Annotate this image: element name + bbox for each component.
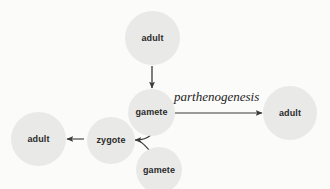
node-adult-top[interactable]: adult xyxy=(125,11,180,65)
edge-label-parthenogenesis: parthenogenesis xyxy=(174,90,259,103)
node-label-gamete-upper: gamete xyxy=(135,108,167,117)
node-label-adult-left: adult xyxy=(28,135,50,144)
node-label-zygote: zygote xyxy=(96,136,125,145)
diagram-canvas: adult gamete adult adult zygote gamete p… xyxy=(0,0,330,189)
node-gamete-upper[interactable]: gamete xyxy=(128,89,175,136)
node-label-gamete-lower: gamete xyxy=(143,166,175,175)
node-zygote[interactable]: zygote xyxy=(87,117,135,164)
node-label-adult-right: adult xyxy=(279,109,301,118)
node-gamete-lower[interactable]: gamete xyxy=(136,147,182,189)
node-label-adult-top: adult xyxy=(142,34,164,43)
node-adult-left[interactable]: adult xyxy=(11,112,66,166)
node-adult-right[interactable]: adult xyxy=(263,86,317,140)
